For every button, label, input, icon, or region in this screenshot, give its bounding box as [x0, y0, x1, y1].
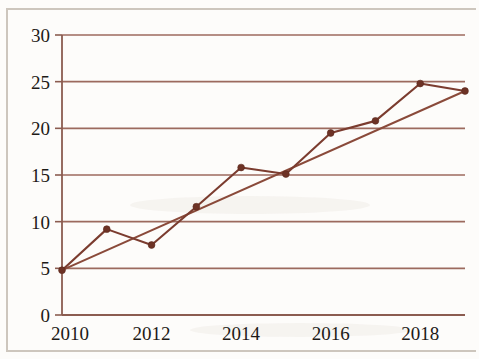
- y-tick-label-10: 10: [31, 212, 50, 233]
- data-point-2018: [417, 80, 424, 87]
- x-tick-label-2018: 2018: [401, 323, 439, 344]
- data-point-2010: [59, 267, 66, 274]
- y-axis-tick-labels: 051015202530: [31, 25, 50, 326]
- data-point-2016: [327, 130, 334, 137]
- y-tick-label-15: 15: [31, 165, 50, 186]
- trendline: [62, 91, 465, 270]
- y-tick-label-0: 0: [41, 305, 51, 326]
- data-point-2014: [238, 164, 245, 171]
- chart-svg: 051015202530 20102012201420162018: [0, 0, 479, 359]
- y-tick-label-30: 30: [31, 25, 50, 46]
- scanned-chart-page: 051015202530 20102012201420162018: [0, 0, 479, 359]
- y-tick-label-5: 5: [41, 258, 51, 279]
- x-tick-label-2014: 2014: [222, 323, 261, 344]
- x-tick-label-2010: 2010: [51, 323, 89, 344]
- line-chart: 051015202530 20102012201420162018: [0, 0, 479, 359]
- x-tick-label-2012: 2012: [133, 323, 171, 344]
- y-tick-label-20: 20: [31, 118, 50, 139]
- gridlines: [62, 35, 465, 315]
- data-point-2019: [462, 88, 469, 95]
- x-tick-label-2016: 2016: [312, 323, 350, 344]
- y-tick-label-25: 25: [31, 72, 50, 93]
- data-point-2013: [193, 203, 200, 210]
- data-series-line: [62, 84, 465, 271]
- data-point-2015: [282, 171, 289, 178]
- data-point-2017: [372, 117, 379, 124]
- data-point-2012: [148, 242, 155, 249]
- data-point-2011: [103, 226, 110, 233]
